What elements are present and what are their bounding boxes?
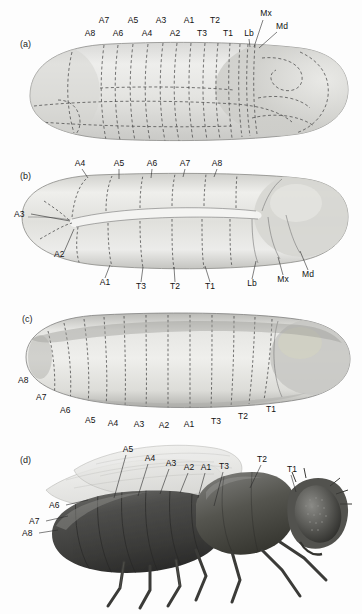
embryo-extended-germ-band xyxy=(22,173,350,269)
panel-a-bottom-labels: A8 A6 A4 A2 T3 T1 xyxy=(85,28,233,38)
label-a8: A8 xyxy=(212,158,223,168)
label-t3: T3 xyxy=(136,281,146,291)
label-a4: A4 xyxy=(75,158,86,168)
label-a4: A4 xyxy=(142,28,153,38)
label-a4: A4 xyxy=(145,453,156,463)
label-a2: A2 xyxy=(184,462,195,472)
label-a3: A3 xyxy=(14,209,25,219)
label-a7: A7 xyxy=(180,158,191,168)
label-a3: A3 xyxy=(166,458,177,468)
label-a8: A8 xyxy=(22,528,33,538)
embryo-blastoderm xyxy=(20,40,355,141)
label-a1: A1 xyxy=(100,277,111,287)
label-a8: A8 xyxy=(85,28,96,38)
label-a8: A8 xyxy=(18,375,29,385)
panel-a-blastoderm: (a) xyxy=(0,0,362,155)
panel-c-retracted-germ-band: (c) xyxy=(0,295,362,430)
label-t1: T1 xyxy=(287,464,297,474)
panel-letter-b: (b) xyxy=(20,171,31,181)
panel-d-adult-fly: (d) xyxy=(0,430,362,614)
label-a3: A3 xyxy=(156,15,167,25)
label-t3: T3 xyxy=(211,416,221,426)
label-lb: Lb xyxy=(244,28,254,38)
label-a5: A5 xyxy=(123,444,134,454)
panel-letter-a: (a) xyxy=(20,39,31,49)
label-a6: A6 xyxy=(60,405,71,415)
label-a1: A1 xyxy=(184,419,195,429)
label-t1: T1 xyxy=(223,28,233,38)
label-md: Md xyxy=(276,21,288,31)
embryo-retracted-germ-band xyxy=(26,313,354,409)
panel-a-top-labels: A7 A5 A3 A1 T2 xyxy=(99,15,220,25)
label-a5: A5 xyxy=(85,415,96,425)
label-mx: Mx xyxy=(260,8,272,18)
label-mx: Mx xyxy=(277,274,289,284)
label-a1: A1 xyxy=(201,462,212,472)
label-a2: A2 xyxy=(159,420,170,430)
panel-b-extended-germ-band: (b) xyxy=(0,155,362,295)
panel-letter-c: (c) xyxy=(22,314,33,324)
label-a6: A6 xyxy=(49,500,60,510)
label-a5: A5 xyxy=(114,158,125,168)
label-t2: T2 xyxy=(238,411,248,421)
label-t2: T2 xyxy=(257,454,267,464)
label-a7: A7 xyxy=(36,392,47,402)
label-t2: T2 xyxy=(210,15,220,25)
label-a5: A5 xyxy=(128,15,139,25)
label-a4: A4 xyxy=(108,418,119,428)
label-t3: T3 xyxy=(219,461,229,471)
label-lb: Lb xyxy=(247,278,257,288)
label-a2: A2 xyxy=(170,28,181,38)
panel-a-head-labels: Lb Mx Md xyxy=(244,8,288,48)
label-a1: A1 xyxy=(184,15,195,25)
adult-fly xyxy=(46,445,352,608)
label-a7: A7 xyxy=(29,516,40,526)
label-t2: T2 xyxy=(170,281,180,291)
label-a6: A6 xyxy=(147,158,158,168)
label-t1: T1 xyxy=(266,404,276,414)
label-md: Md xyxy=(302,269,314,279)
figure-drosophila-segmentation: (a) xyxy=(0,0,362,614)
label-a2: A2 xyxy=(54,249,65,259)
label-t3: T3 xyxy=(197,28,207,38)
label-a7: A7 xyxy=(99,15,110,25)
label-a3: A3 xyxy=(134,419,145,429)
label-a6: A6 xyxy=(113,28,124,38)
panel-letter-d: (d) xyxy=(20,455,31,465)
label-t1: T1 xyxy=(205,281,215,291)
